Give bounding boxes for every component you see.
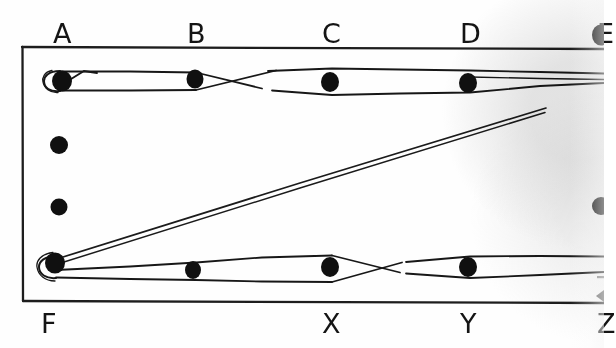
top-rail-upper-cd [268,69,604,74]
label-d: D [460,20,481,47]
diagonal-strand-lower [56,113,545,265]
node-group-bottom [45,253,477,280]
diagonal-strand-upper [55,108,546,260]
node-left-mid-lower [51,199,68,216]
border-left [23,47,24,301]
bottom-cross-x-down [332,256,400,273]
node-d [459,73,477,93]
node-f [45,253,65,274]
node-right-mid-cropped [592,197,604,215]
bottom-cross-x-up [332,263,402,283]
scan-artifacts [596,276,604,302]
top-rail-lower-ab [60,90,196,91]
label-z-cropped: Z [597,310,616,337]
label-y: Y [460,310,477,337]
label-b: B [187,20,206,47]
bottom-rail-upper-y [406,256,604,262]
label-c: C [322,20,341,47]
node-y [459,257,477,277]
label-a: A [53,20,71,47]
bottom-rail-lower-y [406,272,604,278]
diagonal-strand [55,108,546,265]
node-a [52,71,72,92]
label-e-cropped: E [597,20,614,47]
artifact-bottom-right [596,290,604,302]
border-bottom [23,301,604,303]
top-cross-b-up [196,71,276,91]
node-group-left-column [50,136,68,216]
label-x: X [322,310,341,337]
node-left-mid-upper [50,136,68,154]
node-b [187,70,204,89]
label-f: F [41,310,57,337]
node-x [321,257,339,277]
figure-border [22,47,604,303]
node-c [321,72,339,92]
node-group-right-column [592,197,604,215]
border-top [22,47,604,49]
artifact-tick [597,276,604,278]
node-bottom-b [185,261,201,279]
top-cross-b-down [196,73,262,89]
top-rail-upper-d-companion [470,77,604,80]
